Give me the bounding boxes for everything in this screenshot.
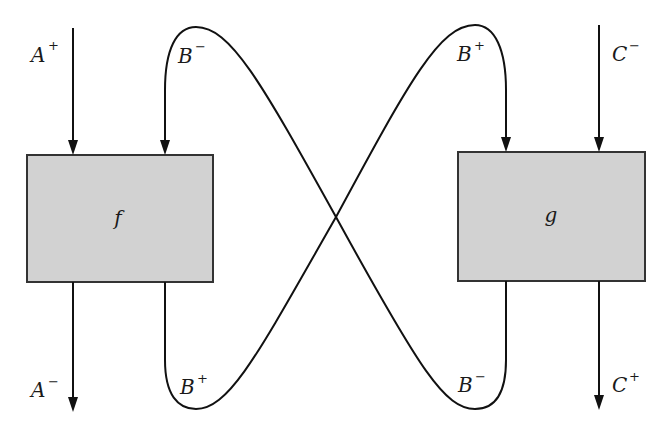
svg-text:B: B xyxy=(457,373,473,397)
label-a-plus: A + xyxy=(29,38,59,67)
arrowhead-down-icon xyxy=(68,140,78,155)
svg-text:−: − xyxy=(629,38,640,53)
svg-text:A: A xyxy=(29,378,45,402)
wire-b-cross-2 xyxy=(165,25,506,409)
box-g-label: g xyxy=(545,203,558,227)
label-b-plus-bottom: B + xyxy=(179,371,208,399)
svg-text:C: C xyxy=(612,42,627,66)
svg-text:−: − xyxy=(195,39,206,54)
svg-text:+: + xyxy=(48,38,59,53)
svg-text:+: + xyxy=(197,371,208,386)
svg-text:B: B xyxy=(179,375,195,399)
svg-text:+: + xyxy=(629,369,640,384)
label-b-minus-bottom: B − xyxy=(457,369,486,397)
svg-text:B: B xyxy=(177,44,193,68)
arrowhead-down-icon xyxy=(594,395,604,410)
svg-text:A: A xyxy=(29,43,45,67)
svg-text:B: B xyxy=(456,42,472,66)
arrowhead-down-icon xyxy=(68,397,78,412)
label-b-minus-top: B − xyxy=(177,39,206,68)
label-c-minus: C − xyxy=(612,38,640,66)
arrowhead-down-icon xyxy=(594,137,604,152)
string-diagram: f g A + A − B − B + B + B − C − xyxy=(0,0,667,430)
svg-text:+: + xyxy=(474,38,485,53)
label-b-plus-top: B + xyxy=(456,38,485,66)
arrowhead-down-icon xyxy=(501,137,511,152)
arrowhead-down-icon xyxy=(160,140,170,155)
svg-text:−: − xyxy=(48,374,59,389)
svg-text:−: − xyxy=(475,369,486,384)
svg-text:C: C xyxy=(612,373,627,397)
label-c-plus: C + xyxy=(612,369,640,397)
label-a-minus: A − xyxy=(29,374,59,402)
